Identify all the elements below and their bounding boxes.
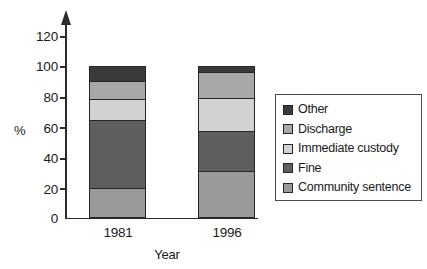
bar-segment-discharge xyxy=(199,73,254,99)
y-axis-arrow-icon xyxy=(61,10,71,25)
bar-1981[interactable] xyxy=(89,66,146,218)
y-tick-label-80: 80 xyxy=(10,91,58,105)
bar-segment-community-sentence xyxy=(199,172,254,217)
y-tick-label-60: 60 xyxy=(10,122,58,136)
bar-1996[interactable] xyxy=(198,66,255,218)
legend: Other Discharge Immediate custody Fine C… xyxy=(275,94,422,201)
y-axis-tick-group: 120 100 80 60 40 20 0 xyxy=(0,0,58,269)
bar-segment-immediate-custody xyxy=(199,99,254,132)
bar-segment-immediate-custody xyxy=(90,100,145,121)
legend-label: Fine xyxy=(298,162,321,175)
legend-item-fine[interactable]: Fine xyxy=(283,159,421,179)
stacked-bar-chart: % 120 100 80 60 40 20 0 xyxy=(0,0,427,269)
y-tick-label-120: 120 xyxy=(10,30,58,44)
bar-segment-community-sentence xyxy=(90,189,145,218)
bar-segment-other xyxy=(90,67,145,82)
y-tick-label-0: 0 xyxy=(10,212,58,226)
legend-item-immediate-custody[interactable]: Immediate custody xyxy=(283,139,421,159)
legend-swatch-icon xyxy=(283,163,293,173)
x-tick-label-1996: 1996 xyxy=(187,226,267,240)
legend-label: Immediate custody xyxy=(298,142,399,155)
legend-label: Community sentence xyxy=(298,181,411,194)
legend-item-other[interactable]: Other xyxy=(283,100,421,120)
bar-segment-fine xyxy=(199,132,254,173)
plot-area xyxy=(65,24,265,218)
legend-label: Discharge xyxy=(298,123,352,136)
y-tick-label-40: 40 xyxy=(10,152,58,166)
legend-item-discharge[interactable]: Discharge xyxy=(283,120,421,140)
bar-segment-fine xyxy=(90,121,145,189)
bar-segment-discharge xyxy=(90,82,145,100)
legend-swatch-icon xyxy=(283,183,293,193)
legend-swatch-icon xyxy=(283,124,293,134)
x-tick-label-1981: 1981 xyxy=(78,226,158,240)
y-tick-label-100: 100 xyxy=(10,60,58,74)
legend-swatch-icon xyxy=(283,144,293,154)
legend-label: Other xyxy=(298,103,328,116)
y-tick-label-20: 20 xyxy=(10,183,58,197)
legend-swatch-icon xyxy=(283,105,293,115)
legend-item-community-sentence[interactable]: Community sentence xyxy=(283,178,421,198)
x-axis-title: Year xyxy=(112,248,222,261)
